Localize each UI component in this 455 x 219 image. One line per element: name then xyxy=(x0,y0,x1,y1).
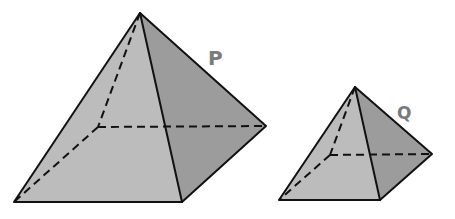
pyramid-p: P xyxy=(14,13,266,202)
pyramids-diagram: P Q xyxy=(0,0,455,219)
pyramid-p-label: P xyxy=(208,46,223,70)
pyramid-q: Q xyxy=(279,87,432,200)
pyramid-q-label: Q xyxy=(397,103,411,123)
